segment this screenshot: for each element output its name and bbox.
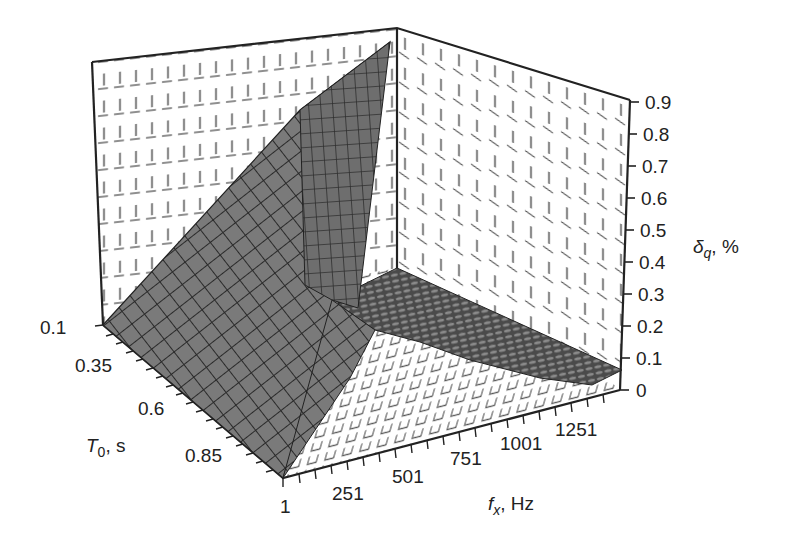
svg-text:0.35: 0.35 [75,355,112,376]
svg-text:0.7: 0.7 [642,156,668,177]
z-tick-labels: 0 0.1 0.2 0.3 0.4 0.5 0.6 0.7 0.8 0.9 [636,92,671,401]
svg-text:751: 751 [450,448,482,469]
z-axis-title: δq, % [693,236,739,261]
t0-axis-title: T0, s [86,435,125,460]
svg-text:251: 251 [332,483,364,504]
svg-text:0.6: 0.6 [641,188,667,209]
svg-text:0.1: 0.1 [636,348,662,369]
svg-text:1001: 1001 [500,433,542,454]
svg-text:0.9: 0.9 [645,92,671,113]
svg-text:1: 1 [280,496,291,517]
svg-text:0: 0 [636,380,647,401]
svg-text:0.6: 0.6 [138,398,164,419]
surface-plot: 0 0.1 0.2 0.3 0.4 0.5 0.6 0.7 0.8 0.9 δq… [0,0,786,550]
svg-text:0.8: 0.8 [643,124,669,145]
svg-text:0.4: 0.4 [639,252,666,273]
svg-text:0.2: 0.2 [637,316,663,337]
svg-text:1251: 1251 [555,419,597,440]
svg-text:0.85: 0.85 [185,445,222,466]
svg-text:501: 501 [392,466,424,487]
svg-text:0.5: 0.5 [640,220,666,241]
svg-text:0.3: 0.3 [638,284,664,305]
svg-text:0.1: 0.1 [40,317,66,338]
fx-axis-title: fx, Hz [488,493,534,518]
